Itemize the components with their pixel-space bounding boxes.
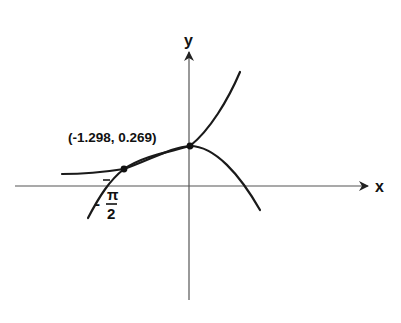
- tick-label-sign: -: [95, 195, 100, 212]
- tick-label-neg-pi-over-2: - π 2: [95, 186, 119, 222]
- intersection-coordinate-label: (-1.298, 0.269): [68, 130, 157, 145]
- y-axis-intersection-point: [187, 143, 194, 150]
- x-axis-label: x: [375, 178, 384, 195]
- decreasing-curve: [62, 146, 260, 210]
- diagram-canvas: x y - π 2 (-1.298, 0.269): [0, 0, 401, 323]
- tick-label-numerator: π: [107, 186, 119, 203]
- tick-label-denominator: 2: [107, 205, 115, 222]
- left-intersection-point: [121, 166, 128, 173]
- y-axis-label: y: [184, 32, 193, 49]
